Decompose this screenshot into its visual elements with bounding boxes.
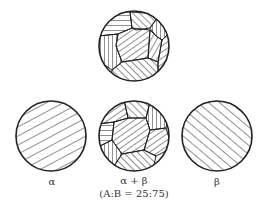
alpha-label: α: [49, 176, 56, 187]
ratio-label: (A:B = 25:75): [99, 188, 168, 199]
alpha-beta-mixed-circle: [98, 100, 172, 174]
mixed-grain-circle-top: [98, 10, 172, 84]
alpha-phase-circle: [16, 101, 86, 171]
beta-phase-circle: [182, 101, 252, 171]
beta-label: β: [214, 176, 220, 187]
alpha-beta-label: α + β: [120, 175, 147, 186]
